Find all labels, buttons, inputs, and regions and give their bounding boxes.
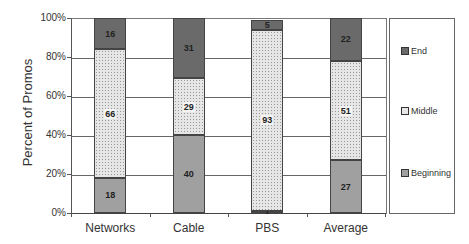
x-tick-label: Average: [306, 221, 386, 235]
y-tick-label: 0%: [22, 207, 66, 218]
bar-segment-middle: 51: [330, 61, 362, 160]
data-label: 16: [104, 29, 116, 39]
x-tick-mark: [307, 213, 308, 217]
y-axis-label: Percent of Promos: [20, 58, 35, 168]
data-label: 5: [264, 20, 271, 30]
bar-networks: 186616: [94, 18, 126, 213]
y-tick-label: 40%: [22, 129, 66, 140]
y-tick-mark: [67, 174, 71, 175]
data-label: 27: [340, 182, 352, 192]
x-tick-mark: [71, 213, 72, 217]
legend-label: End: [411, 46, 427, 56]
y-tick-mark: [67, 135, 71, 136]
bar-pbs: 1935: [251, 18, 283, 213]
bar-segment-end: 31: [173, 18, 205, 78]
x-tick-mark: [228, 213, 229, 217]
bar-segment-end: 5: [251, 20, 283, 30]
data-label: 66: [104, 109, 116, 119]
y-tick-label: 60%: [22, 90, 66, 101]
legend-label: Beginning: [411, 168, 451, 178]
x-tick-label: Networks: [70, 221, 150, 235]
x-tick-mark: [385, 213, 386, 217]
data-label: 31: [183, 43, 195, 53]
data-label: 18: [104, 190, 116, 200]
y-tick-label: 100%: [22, 12, 66, 23]
bar-segment-middle: 93: [251, 30, 283, 211]
bar-segment-beginning: 1: [251, 211, 283, 213]
data-label: 29: [183, 102, 195, 112]
legend-label: Middle: [411, 106, 438, 116]
y-tick-mark: [67, 18, 71, 19]
legend-swatch: [401, 169, 409, 177]
legend-swatch: [401, 47, 409, 55]
bar-segment-beginning: 27: [330, 160, 362, 213]
x-tick-mark: [150, 213, 151, 217]
y-tick-mark: [67, 57, 71, 58]
y-tick-label: 80%: [22, 51, 66, 62]
legend-item-middle: Middle: [401, 106, 438, 116]
bar-cable: 402931: [173, 18, 205, 213]
bar-segment-end: 22: [330, 18, 362, 61]
bar-segment-beginning: 40: [173, 135, 205, 213]
bar-segment-middle: 29: [173, 78, 205, 135]
x-tick-label: Cable: [149, 221, 229, 235]
legend: EndMiddleBeginning: [389, 18, 455, 214]
bar-segment-end: 16: [94, 18, 126, 49]
y-tick-label: 20%: [22, 168, 66, 179]
y-tick-mark: [67, 96, 71, 97]
bar-segment-middle: 66: [94, 49, 126, 178]
data-label: 22: [340, 34, 352, 44]
x-tick-label: PBS: [227, 221, 307, 235]
data-label: 93: [261, 115, 273, 125]
data-label: 51: [340, 106, 352, 116]
bar-segment-beginning: 18: [94, 178, 126, 213]
data-label: 40: [183, 169, 195, 179]
legend-item-beginning: Beginning: [401, 168, 451, 178]
bar-average: 275122: [330, 18, 362, 213]
legend-item-end: End: [401, 46, 427, 56]
legend-swatch: [401, 107, 409, 115]
